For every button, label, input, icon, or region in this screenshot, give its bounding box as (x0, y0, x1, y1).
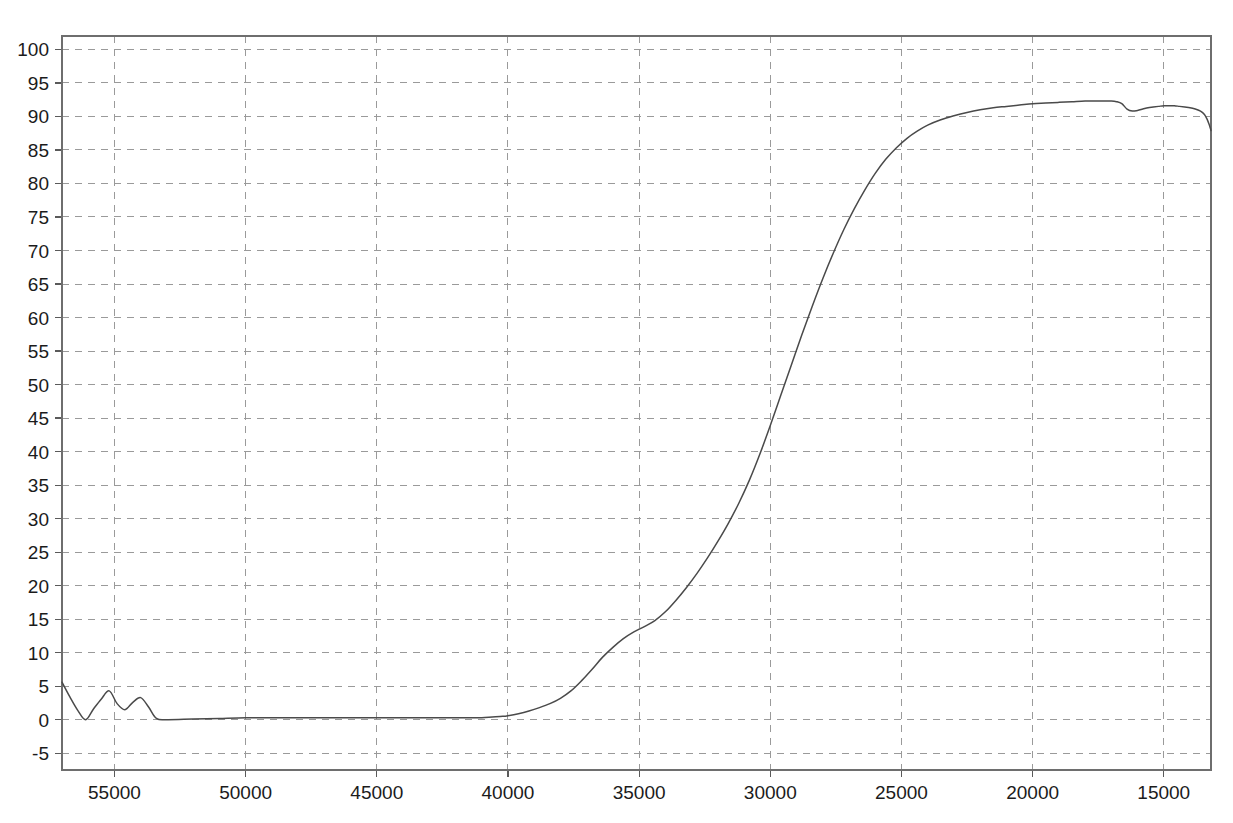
y-tick-label: 80 (28, 173, 49, 194)
x-tick-label: 30000 (744, 782, 797, 803)
y-tick-label: 0 (38, 710, 49, 731)
x-tick-label: 25000 (875, 782, 928, 803)
y-tick-label: 10 (28, 643, 49, 664)
x-axis-tick-marks (114, 770, 1163, 777)
transmittance-curve (62, 101, 1211, 720)
y-tick-label: 90 (28, 106, 49, 127)
vertical-gridlines (114, 36, 1163, 770)
y-tick-label: 85 (28, 140, 49, 161)
y-tick-label: 15 (28, 609, 49, 630)
x-tick-label: 50000 (219, 782, 272, 803)
chart-canvas: -505101520253035404550556065707580859095… (0, 0, 1233, 823)
plot-area-frame (62, 36, 1211, 770)
y-tick-label: 45 (28, 408, 49, 429)
x-axis-tick-labels: 5500050000450004000035000300002500020000… (88, 782, 1190, 803)
y-tick-label: 5 (38, 676, 49, 697)
y-tick-label: 65 (28, 274, 49, 295)
y-tick-label: 40 (28, 442, 49, 463)
x-tick-label: 55000 (88, 782, 141, 803)
y-tick-label: 25 (28, 542, 49, 563)
y-tick-label: 55 (28, 341, 49, 362)
y-tick-label: 50 (28, 375, 49, 396)
transmittance-spectrum-chart: -505101520253035404550556065707580859095… (0, 0, 1233, 823)
y-tick-label: 30 (28, 509, 49, 530)
horizontal-gridlines (62, 49, 1211, 753)
x-tick-label: 45000 (350, 782, 403, 803)
x-tick-label: 35000 (613, 782, 666, 803)
y-tick-label: 35 (28, 475, 49, 496)
y-tick-label: 20 (28, 576, 49, 597)
y-tick-label: 60 (28, 308, 49, 329)
y-tick-label: 100 (17, 39, 49, 60)
x-tick-label: 15000 (1137, 782, 1190, 803)
y-tick-label: -5 (32, 743, 49, 764)
y-tick-label: 95 (28, 73, 49, 94)
y-tick-label: 70 (28, 241, 49, 262)
y-axis-tick-labels: -505101520253035404550556065707580859095… (17, 39, 49, 764)
x-tick-label: 40000 (482, 782, 535, 803)
x-tick-label: 20000 (1006, 782, 1059, 803)
y-axis-tick-marks (55, 49, 62, 753)
y-tick-label: 75 (28, 207, 49, 228)
